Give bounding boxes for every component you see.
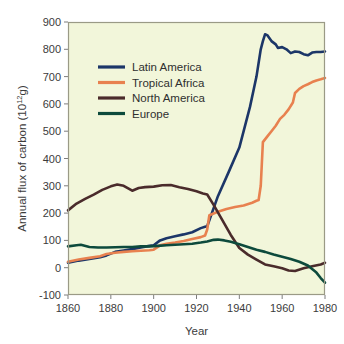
svg-text:Annual flux of carbon (1012g): Annual flux of carbon (1012g) bbox=[15, 85, 28, 232]
x-axis-title: Year bbox=[185, 325, 208, 337]
y-axis-title-main: Annual flux of carbon (10 bbox=[16, 104, 28, 232]
y-tick-label: 400 bbox=[43, 153, 61, 165]
x-tick-label: 1880 bbox=[99, 302, 123, 314]
y-tick-label: 100 bbox=[43, 234, 61, 246]
y-tick-label: 700 bbox=[43, 71, 61, 83]
y-tick-label: 300 bbox=[43, 180, 61, 192]
x-tick-label: 1860 bbox=[56, 302, 80, 314]
y-tick-label: 600 bbox=[43, 98, 61, 110]
y-tick-label: 200 bbox=[43, 207, 61, 219]
y-axis-title-tail: g) bbox=[16, 85, 28, 95]
y-tick-label: 900 bbox=[43, 16, 61, 28]
legend-label-europe: Europe bbox=[132, 108, 169, 120]
x-tick-label: 1900 bbox=[141, 302, 165, 314]
x-tick-label: 1960 bbox=[270, 302, 294, 314]
legend-label-latin-america: Latin America bbox=[132, 61, 202, 73]
chart-figure: -1000100200300400500600700800900 1860188… bbox=[0, 0, 344, 344]
y-axis-title-superscript: 12 bbox=[15, 96, 24, 104]
x-tick-label: 1980 bbox=[313, 302, 337, 314]
y-tick-label: 500 bbox=[43, 125, 61, 137]
y-axis-title: Annual flux of carbon (1012g) bbox=[15, 85, 28, 232]
y-tick-label: 800 bbox=[43, 43, 61, 55]
line-chart: -1000100200300400500600700800900 1860188… bbox=[0, 0, 344, 344]
x-tick-label: 1920 bbox=[184, 302, 208, 314]
legend-label-north-america: North America bbox=[132, 92, 205, 104]
legend-label-tropical-africa: Tropical Africa bbox=[132, 77, 205, 89]
y-tick-label: -100 bbox=[39, 289, 61, 301]
y-tick-label: 0 bbox=[55, 262, 61, 274]
x-tick-label: 1940 bbox=[227, 302, 251, 314]
